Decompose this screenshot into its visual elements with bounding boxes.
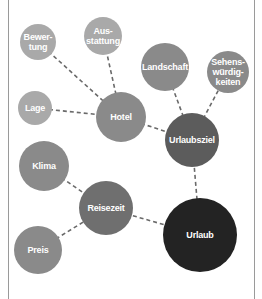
node-hotel: Hotel	[96, 92, 146, 142]
node-label: Lage	[25, 103, 45, 113]
node-label: Reisezeit	[87, 203, 124, 213]
node-landschaft: Landschaft	[141, 43, 189, 91]
node-bewertung: Bewer- tung	[20, 24, 56, 60]
node-ausstattung: Aus- stattung	[84, 17, 122, 55]
node-label: Urlaubsziel	[169, 135, 215, 145]
node-label: Klima	[32, 161, 56, 171]
node-reisezeit: Reisezeit	[79, 181, 133, 235]
node-label: Bewer- tung	[24, 32, 53, 52]
node-label: Landschaft	[142, 62, 188, 72]
node-label: Hotel	[110, 112, 132, 122]
node-label: Preis	[27, 245, 48, 255]
node-urlaubsziel: Urlaubsziel	[165, 113, 219, 167]
node-sehenswuerdigkeiten: Sehens- würdig- keiten	[207, 51, 249, 93]
node-klima: Klima	[19, 141, 69, 191]
node-label: Sehens- würdig- keiten	[211, 57, 245, 87]
node-lage: Lage	[18, 91, 52, 125]
node-preis: Preis	[14, 226, 62, 274]
node-label: Urlaub	[186, 230, 213, 240]
node-urlaub: Urlaub	[163, 198, 237, 272]
node-label: Aus- stattung	[86, 26, 120, 46]
